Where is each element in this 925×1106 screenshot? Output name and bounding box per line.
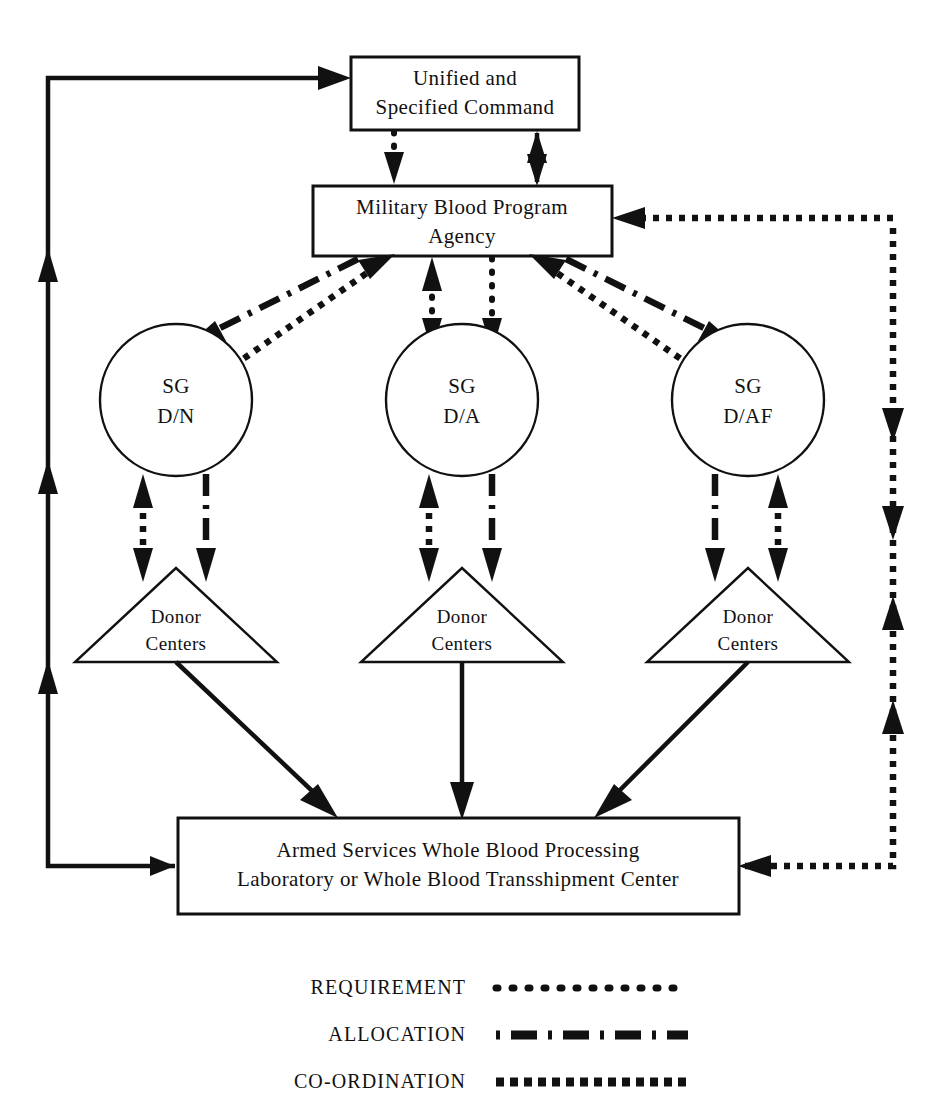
sg-dn-circle[interactable] xyxy=(100,324,252,476)
link-sgda-donor-coordination xyxy=(419,474,439,582)
link-donor1-aswbpl xyxy=(176,662,338,818)
link-sgdn-donor-allocation xyxy=(196,474,216,582)
donor-centers-3-label-line2: Centers xyxy=(718,633,779,654)
arrow-head-into-mbpa-right xyxy=(612,207,645,229)
arrow-head-up-2 xyxy=(38,460,58,494)
sg-da-label-line2: D/A xyxy=(443,404,481,428)
link-donor2-aswbpl xyxy=(450,662,474,820)
link-mbpa-sgdaf-allocation xyxy=(566,259,734,343)
node-donor-centers-3[interactable]: Donor Centers xyxy=(647,568,849,662)
alloc-mbpa-sgdn xyxy=(212,259,358,332)
donor-centers-2-label-line1: Donor xyxy=(437,606,488,627)
legend-item-requirement: REQUIREMENT xyxy=(311,976,688,998)
arrow-head-coord-down-donor1 xyxy=(133,548,153,582)
arrow-head-coord-up-sgdaf xyxy=(768,474,788,508)
arrow-head-coord-up-sgda xyxy=(419,474,439,508)
sg-da-circle[interactable] xyxy=(386,324,538,476)
arrow-head-up-1 xyxy=(38,248,58,282)
legend-label-requirement: REQUIREMENT xyxy=(311,976,466,998)
link-sgdaf-donor-allocation xyxy=(705,474,725,582)
arrow-head-donor1-aswbpl xyxy=(300,784,338,818)
arrow-head-down-mbpa-unified xyxy=(527,154,547,186)
node-sg-da[interactable]: SG D/A xyxy=(386,324,538,476)
link-mbpa-unified-solid xyxy=(527,131,547,186)
link-sgdaf-donor-coordination xyxy=(768,474,788,582)
node-sg-dn[interactable]: SG D/N xyxy=(100,324,252,476)
arrow-head-into-aswbpl-right xyxy=(738,855,771,877)
sg-dn-label-line2: D/N xyxy=(157,404,194,428)
sg-daf-label-line2: D/AF xyxy=(723,404,772,428)
node-unified-command[interactable]: Unified and Specified Command xyxy=(351,57,579,130)
arrow-head-alloc-down-donor2 xyxy=(482,548,502,582)
donor-centers-1-label-line2: Centers xyxy=(146,633,207,654)
arrow-head-coord-down-donor2 xyxy=(419,548,439,582)
solid-donor1-aswbpl xyxy=(176,662,327,805)
legend-item-coordination: CO-ORDINATION xyxy=(294,1070,688,1092)
link-donor3-aswbpl xyxy=(594,662,748,818)
arrow-head-coord-down-donor3 xyxy=(768,548,788,582)
link-unified-to-mbpa-requirement xyxy=(384,132,404,184)
arrow-head-up-3 xyxy=(38,660,58,694)
arrow-head-into-unified-command xyxy=(318,66,351,90)
arrow-head-coord-up-sgdn xyxy=(133,474,153,508)
sg-dn-label-line1: SG xyxy=(162,374,190,398)
coord-right-vertical xyxy=(745,228,893,866)
sg-daf-circle[interactable] xyxy=(672,324,824,476)
alloc-mbpa-sgdaf xyxy=(566,259,712,332)
unified-command-label-line1: Unified and xyxy=(413,66,517,90)
mbpa-label-line1: Military Blood Program xyxy=(356,195,568,219)
link-mbpa-sgdn-allocation xyxy=(190,259,358,343)
legend-item-allocation: ALLOCATION xyxy=(328,1023,688,1045)
arrow-head-alloc-down-donor3 xyxy=(705,548,725,582)
arrow-head-alloc-down-donor1 xyxy=(196,548,216,582)
donor-centers-2-label-line2: Centers xyxy=(432,633,493,654)
arrow-head-down-r2 xyxy=(882,506,904,540)
arrow-head-up-r1 xyxy=(882,596,904,630)
donor-centers-3-label-line1: Donor xyxy=(723,606,774,627)
legend-label-allocation: ALLOCATION xyxy=(328,1023,466,1045)
node-sg-daf[interactable]: SG D/AF xyxy=(672,324,824,476)
node-aswbpl[interactable]: Armed Services Whole Blood Processing La… xyxy=(178,818,739,914)
solid-donor3-aswbpl xyxy=(605,662,748,805)
link-sgdn-donor-coordination xyxy=(133,474,153,582)
link-sgda-donor-allocation xyxy=(482,474,502,582)
flow-diagram: Unified and Specified Command Military B… xyxy=(0,0,925,1106)
sg-da-label-line1: SG xyxy=(448,374,476,398)
node-donor-centers-1[interactable]: Donor Centers xyxy=(75,568,277,662)
diagram-canvas: Unified and Specified Command Military B… xyxy=(0,0,925,1106)
aswbpl-label-line2: Laboratory or Whole Blood Transshipment … xyxy=(237,867,679,891)
legend: REQUIREMENT ALLOCATION CO-ORDINATION xyxy=(294,976,688,1092)
aswbpl-label-line1: Armed Services Whole Blood Processing xyxy=(276,838,639,862)
node-donor-centers-2[interactable]: Donor Centers xyxy=(361,568,563,662)
aswbpl-box[interactable] xyxy=(178,818,739,914)
arrow-head-up-r2 xyxy=(882,700,904,734)
arrow-head-left-into-line xyxy=(150,856,175,876)
unified-command-label-line2: Specified Command xyxy=(376,95,555,119)
arrow-head-down-r1 xyxy=(882,408,904,442)
node-mbpa[interactable]: Military Blood Program Agency xyxy=(313,186,612,256)
arrow-head-req-up-sgda xyxy=(422,257,442,291)
mbpa-label-line2: Agency xyxy=(428,224,496,248)
sg-daf-label-line1: SG xyxy=(734,374,762,398)
arrow-head-donor3-aswbpl xyxy=(594,784,632,818)
legend-label-coordination: CO-ORDINATION xyxy=(294,1070,466,1092)
arrow-head-down-unified-mbpa xyxy=(384,152,404,184)
donor-centers-1-label-line1: Donor xyxy=(151,606,202,627)
coord-mbpa-sgdaf xyxy=(547,266,691,366)
coord-mbpa-sgdn xyxy=(233,266,377,366)
arrow-head-donor2-aswbpl xyxy=(450,782,474,820)
